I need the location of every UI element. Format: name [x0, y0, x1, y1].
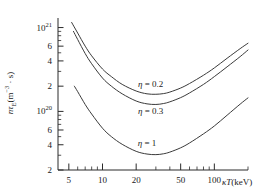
y-tick-label: 6	[8, 42, 52, 51]
x-tick-label: 50	[176, 176, 185, 185]
x-axis-title-unit: (keV)	[231, 177, 252, 187]
y-axis-title: nτE(m−3 · s)	[5, 58, 15, 128]
x-axis-title: κT(keV)	[222, 177, 252, 187]
x-tick-label: 100	[208, 176, 222, 185]
x-tick-label: 5	[67, 176, 72, 185]
x-tick-label: 10	[98, 176, 107, 185]
curve-annotation-1: η = 0.2	[137, 79, 164, 89]
curve-annotation-3: η = 1	[137, 138, 158, 148]
data-curve-3	[74, 86, 248, 154]
curve-annotation-2: η = 0.3	[137, 106, 164, 116]
y-tick-label: 4	[8, 140, 52, 149]
y-tick-marks	[58, 28, 64, 170]
x-tick-label: 20	[132, 176, 141, 185]
chart-figure: 10216421020642 5102050100 η = 0.2η = 0.3…	[0, 0, 275, 195]
x-tick-marks	[69, 164, 248, 171]
y-tick-label: 2	[8, 166, 52, 175]
y-tick-label: 1021	[8, 23, 52, 32]
